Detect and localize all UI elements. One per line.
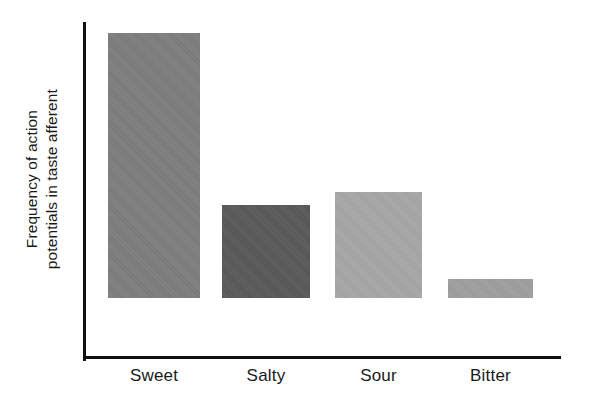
x-tick-label-sour: Sour — [335, 366, 422, 386]
bar-salty — [222, 205, 310, 298]
bar-bitter — [448, 279, 533, 298]
x-tick-label-bitter: Bitter — [448, 366, 533, 386]
plot-area — [0, 0, 607, 359]
x-tick-label-salty: Salty — [222, 366, 310, 386]
bar-sweet — [108, 33, 200, 298]
x-tick-label-sweet: Sweet — [108, 366, 200, 386]
bar-sour — [335, 192, 422, 298]
bar-chart-figure: Frequency of action potentials in taste … — [0, 0, 607, 419]
